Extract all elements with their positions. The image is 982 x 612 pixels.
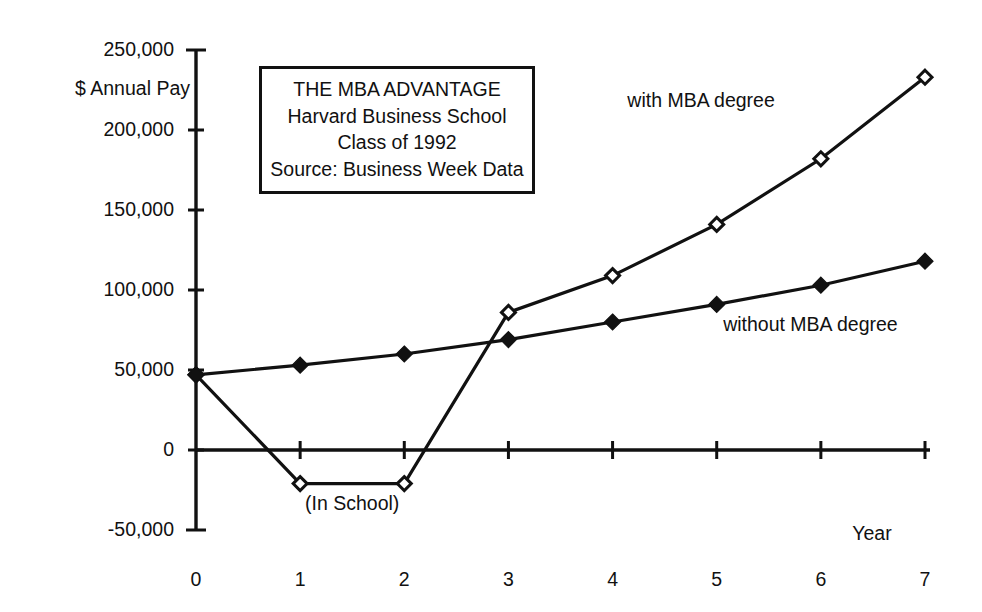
x-axis-tick-label: 3 [503,570,514,590]
title-box-line-3: Class of 1992 [266,129,528,156]
y-axis-tick-label: 200,000 [104,120,175,140]
title-box-line-4: Source: Business Week Data [266,156,528,183]
y-axis-title: $ Annual Pay [75,79,190,99]
y-axis-tick-label: 250,000 [104,40,175,60]
data-point-0-4 [606,269,620,283]
x-axis-title: Year [852,524,891,544]
data-point-1-7 [917,253,933,269]
chart-annotation-2: without MBA degree [723,315,898,335]
chart-annotation-0: (In School) [305,495,399,515]
data-point-1-6 [813,277,829,293]
x-axis-tick-label: 0 [191,570,202,590]
x-axis-tick-label: 1 [295,570,306,590]
data-point-0-2 [397,477,411,491]
y-axis-tick-label: 0 [163,440,174,460]
data-point-0-3 [501,305,515,319]
x-axis-tick-label: 6 [815,570,826,590]
data-point-1-2 [396,346,412,362]
title-box-line-2: Harvard Business School [266,103,528,130]
title-source-box: THE MBA ADVANTAGE Harvard Business Schoo… [259,66,535,194]
x-axis-tick-label: 7 [920,570,931,590]
data-point-1-3 [500,332,516,348]
chart-annotation-1: with MBA degree [627,91,774,111]
x-axis-tick-label: 5 [711,570,722,590]
x-axis-tick-label: 4 [607,570,618,590]
data-point-1-1 [292,357,308,373]
y-axis-tick-label: 50,000 [114,360,174,380]
y-axis-tick-label: 150,000 [104,200,175,220]
chart-figure: -50,000050,000100,000150,000200,000250,0… [0,0,982,612]
data-point-1-4 [605,314,621,330]
y-axis-tick-label: 100,000 [104,280,175,300]
x-axis-tick-label: 2 [399,570,410,590]
data-point-1-5 [709,296,725,312]
title-box-line-1: THE MBA ADVANTAGE [266,76,528,103]
y-axis-tick-label: -50,000 [108,520,174,540]
